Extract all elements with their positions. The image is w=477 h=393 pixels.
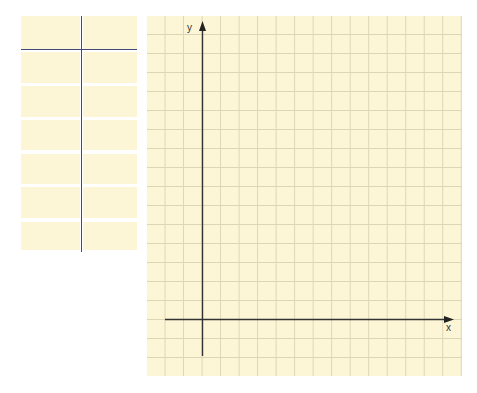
axes [0, 0, 477, 393]
y-axis-label: y [187, 23, 192, 33]
x-axis-label: x [446, 323, 451, 333]
y-axis-arrow-icon [199, 21, 206, 31]
